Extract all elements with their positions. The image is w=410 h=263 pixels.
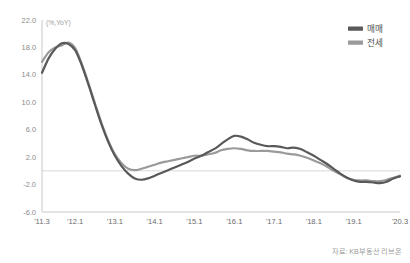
x-tick-label: '17.1 <box>266 217 282 226</box>
y-tick-label: -2.0 <box>23 180 36 189</box>
x-axis-ticks: '11.3'12.1'13.1'14.1'15.1'16.1'17.1'18.1… <box>34 217 408 226</box>
y-axis-unit-label: (%,YoY) <box>46 19 71 27</box>
x-tick-label: '11.3 <box>34 217 50 226</box>
legend-swatch <box>348 41 363 45</box>
x-tick-label: '16.1 <box>226 217 242 226</box>
line-chart: 22.018.014.010.06.02.0-2.0-6.0 '11.3'12.… <box>0 0 410 263</box>
x-tick-label: '18.1 <box>306 217 322 226</box>
y-tick-label: 6.0 <box>26 125 36 134</box>
x-tick-label: '20.3 <box>392 217 408 226</box>
x-tick-label: '13.1 <box>107 217 123 226</box>
x-tick-label: '14.1 <box>147 217 163 226</box>
series-lines <box>42 43 400 184</box>
y-tick-label: 14.0 <box>22 70 36 79</box>
y-tick-label: 22.0 <box>22 16 36 25</box>
y-tick-label: 18.0 <box>22 43 36 52</box>
legend-label: 매매 <box>367 24 383 34</box>
x-tick-label: '15.1 <box>186 217 202 226</box>
chart-container: 22.018.014.010.06.02.0-2.0-6.0 '11.3'12.… <box>0 0 410 263</box>
y-tick-label: 2.0 <box>26 153 36 162</box>
y-axis-ticks: 22.018.014.010.06.02.0-2.0-6.0 <box>22 16 36 217</box>
x-tick-label: '19.1 <box>345 217 361 226</box>
legend-swatch <box>348 27 363 31</box>
x-tick-label: '12.1 <box>67 217 83 226</box>
source-note: 자료: KB부동산 리브온 <box>332 246 402 256</box>
legend-label: 전세 <box>367 38 383 48</box>
series-line-jeonse <box>42 43 400 182</box>
chart-legend: 매매전세 <box>348 24 383 48</box>
y-tick-label: -6.0 <box>23 208 36 217</box>
series-line-maemae <box>42 43 400 183</box>
y-tick-label: 10.0 <box>22 98 36 107</box>
